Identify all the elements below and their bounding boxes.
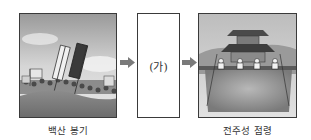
arrow-right-icon bbox=[182, 57, 197, 68]
uprising-scene-icon bbox=[20, 14, 117, 118]
step-2-blank-box: (가) bbox=[137, 13, 180, 118]
step-3-illustration bbox=[198, 13, 297, 118]
fortress-scene-icon bbox=[199, 14, 297, 118]
step-3-caption: 전주성 점령 bbox=[198, 123, 297, 137]
step-1-caption: 백산 봉기 bbox=[19, 123, 117, 137]
step-2-label: (가) bbox=[149, 58, 168, 74]
arrow-right-icon bbox=[120, 57, 135, 68]
step-1-illustration bbox=[19, 13, 117, 118]
